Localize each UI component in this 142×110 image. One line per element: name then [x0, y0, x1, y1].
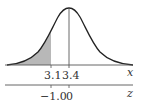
z-axis-label: z — [127, 88, 133, 99]
x-tick-label-3.1: 3.1 — [44, 70, 62, 81]
bell-curve — [7, 8, 133, 65]
shaded-left-tail — [7, 32, 51, 65]
x-axis-label: x — [127, 67, 133, 78]
normal-distribution-diagram: 3.1 3.4 x −1.0 0 z — [0, 0, 142, 110]
z-tick-label-neg1: −1.0 — [40, 91, 67, 102]
x-tick-label-3.4: 3.4 — [62, 70, 80, 81]
z-tick-label-0: 0 — [66, 91, 73, 102]
